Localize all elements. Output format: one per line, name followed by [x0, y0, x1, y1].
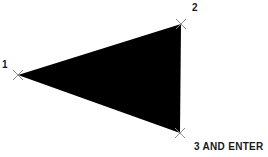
vertex-marker-2 [176, 19, 186, 29]
vertex-label-2: 2 [192, 2, 198, 13]
vertex-label-1: 1 [2, 59, 8, 70]
vertex-label-3: 3 AND ENTER [194, 141, 264, 152]
filled-triangle [18, 24, 181, 133]
triangle-canvas [0, 0, 268, 157]
